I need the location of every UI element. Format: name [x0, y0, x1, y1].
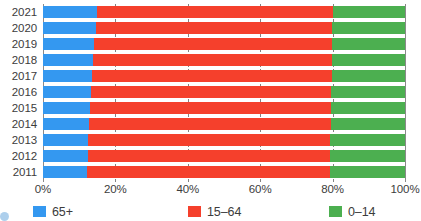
y-tick-label: 2017 [12, 70, 37, 82]
bar-row [43, 150, 405, 162]
bar-row [43, 6, 405, 18]
bar-segment [90, 102, 331, 114]
bar-segment [331, 86, 405, 98]
x-tick-label: 100% [390, 182, 419, 196]
bar-segment [332, 54, 405, 66]
bar-segment [43, 166, 87, 178]
bar-segment [331, 102, 405, 114]
bar-segment [94, 38, 331, 50]
bar-segment [96, 22, 332, 34]
x-tick-label: 40% [176, 182, 199, 196]
bar-row [43, 102, 405, 114]
bar-segment [332, 22, 405, 34]
gridline-100pct [405, 4, 406, 182]
bar-segment [43, 6, 97, 18]
y-tick-label: 2013 [12, 134, 37, 146]
legend-label: 65+ [52, 205, 73, 219]
bar-segment [97, 6, 332, 18]
legend-swatch-icon [33, 206, 46, 217]
x-tick-label: 20% [104, 182, 127, 196]
y-tick-label: 2021 [12, 6, 37, 18]
bar-segment [43, 54, 93, 66]
y-tick-label: 2020 [12, 22, 37, 34]
legend-label: 0–14 [348, 205, 375, 219]
bar-segment [332, 38, 405, 50]
plot-area [43, 0, 405, 192]
x-tick-label: 60% [249, 182, 272, 196]
bar-row [43, 22, 405, 34]
bar-row [43, 38, 405, 50]
y-tick-label: 2014 [12, 118, 37, 130]
bar-row [43, 118, 405, 130]
y-tick-label: 2012 [12, 150, 37, 162]
y-tick-label: 2018 [12, 54, 37, 66]
legend-swatch-icon [188, 206, 201, 217]
bar-segment [330, 134, 405, 146]
y-axis-year-labels: 2021202020192018201720162015201420132012… [0, 0, 40, 192]
bar-segment [330, 166, 405, 178]
bar-row [43, 54, 405, 66]
legend-swatch-icon [329, 206, 342, 217]
bar-segment [332, 70, 405, 82]
plot-wrapper: 2021202020192018201720162015201420132012… [0, 0, 421, 192]
bar-segment [91, 86, 331, 98]
bar-row [43, 166, 405, 178]
y-tick-label: 2019 [12, 38, 37, 50]
bar-segment [43, 38, 94, 50]
bar-segment [43, 134, 88, 146]
bar-row [43, 70, 405, 82]
stacked-bar-chart: 2021202020192018201720162015201420132012… [0, 0, 421, 221]
x-tick-label: 80% [321, 182, 344, 196]
x-tick-label: 0% [35, 182, 51, 196]
legend-item[interactable]: 15–64 [188, 202, 241, 221]
x-axis-percent-labels: 0%20%40%60%80%100% [0, 182, 421, 202]
bar-segment [89, 118, 331, 130]
legend-label: 15–64 [207, 205, 241, 219]
bar-segment [331, 118, 405, 130]
y-tick-label: 2016 [12, 86, 37, 98]
legend-item[interactable]: 65+ [33, 202, 73, 221]
bar-segment [92, 70, 332, 82]
chart-legend: 65+15–640–14 [0, 202, 421, 221]
bar-row [43, 86, 405, 98]
bar-segment [43, 70, 92, 82]
bar-segment [87, 166, 331, 178]
bar-segment [43, 22, 96, 34]
bar-segment [43, 86, 91, 98]
legend-item[interactable]: 0–14 [329, 202, 375, 221]
bar-segment [43, 150, 88, 162]
bar-segment [88, 150, 331, 162]
bar-segment [43, 118, 89, 130]
y-tick-label: 2015 [12, 102, 37, 114]
bar-segment [88, 134, 330, 146]
bar-segment [333, 6, 405, 18]
bar-segment [93, 54, 332, 66]
corner-dot-mark [0, 212, 9, 221]
y-tick-label: 2011 [13, 166, 37, 178]
bar-segment [43, 102, 90, 114]
bar-row [43, 134, 405, 146]
bar-segment [330, 150, 405, 162]
